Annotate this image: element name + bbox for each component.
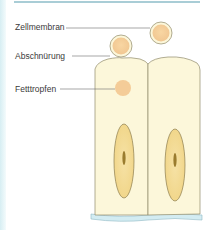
- chromatin-left: [122, 151, 125, 165]
- label-zellmembran: Zellmembran: [15, 22, 65, 32]
- released-vesicle-core: [153, 25, 170, 42]
- label-abschnuerung: Abschnürung: [15, 51, 65, 61]
- label-fetttropfen: Fetttropfen: [15, 84, 56, 94]
- pinching-off-droplet-core: [113, 38, 130, 55]
- chromatin-right: [173, 153, 176, 167]
- fat-droplet: [115, 80, 131, 96]
- apocrine-secretion-diagram: [0, 0, 213, 230]
